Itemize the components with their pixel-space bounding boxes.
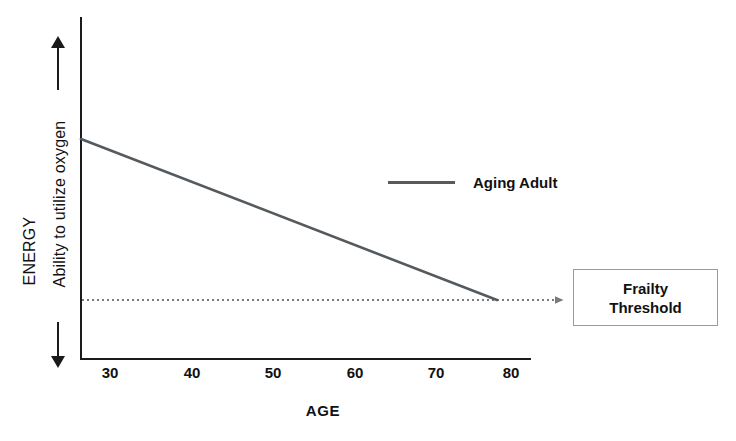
chart-figure: ENERGY Ability to utilize oxygen 30 40 5… (0, 0, 736, 441)
y-axis-line (80, 17, 82, 360)
x-tick-label-80: 80 (489, 364, 533, 381)
y-axis-down-arrow-icon (51, 356, 65, 368)
x-tick-label-30: 30 (88, 364, 132, 381)
frailty-callout-line-1: Frailty (623, 279, 668, 298)
x-tick-label-70: 70 (414, 364, 458, 381)
x-axis-line (80, 358, 531, 360)
y-axis-label-energy: ENERGY (21, 181, 39, 321)
x-tick-label-60: 60 (333, 364, 377, 381)
legend-swatch-aging-adult (388, 181, 455, 184)
frailty-callout-line-2: Threshold (609, 298, 682, 317)
legend-label-aging-adult: Aging Adult (473, 174, 557, 191)
y-axis-label-ability: Ability to utilize oxygen (51, 84, 69, 324)
frailty-threshold-callout: Frailty Threshold (573, 269, 718, 326)
series-line-aging-adult (81, 139, 497, 300)
x-axis-label-age: AGE (253, 402, 393, 419)
chart-legend: Aging Adult (388, 174, 557, 191)
x-tick-label-40: 40 (170, 364, 214, 381)
x-tick-label-50: 50 (251, 364, 295, 381)
